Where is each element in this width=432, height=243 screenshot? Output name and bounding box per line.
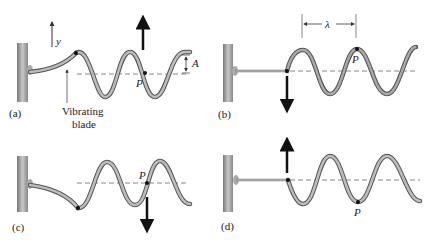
y-axis-label: y <box>55 35 61 47</box>
panel-label-c: (c) <box>12 221 25 234</box>
panel-label-b: (b) <box>218 108 231 121</box>
wall <box>223 155 233 212</box>
point-p-label: P <box>353 206 361 218</box>
panel-label-d: (d) <box>221 220 234 233</box>
wave-figure: P y A Vibrating blade (a) P λ (b) <box>0 0 432 243</box>
wall <box>17 43 28 102</box>
point-p-dot <box>355 47 359 51</box>
wall <box>17 156 28 212</box>
point-p-dot <box>356 200 360 204</box>
panel-label-a: (a) <box>9 107 22 120</box>
caption-vibrating: Vibrating <box>62 105 104 117</box>
point-p-label: P <box>351 53 359 65</box>
point-p-dot <box>143 71 147 75</box>
blade-tip-dot <box>74 51 78 55</box>
amplitude-label: A <box>191 57 199 69</box>
point-p-label: P <box>135 77 143 89</box>
wavelength-label: λ <box>324 18 330 30</box>
point-p-label: P <box>138 169 146 181</box>
wall <box>223 44 233 102</box>
panel-b: P λ (b) <box>218 14 418 121</box>
point-p-dot <box>145 181 149 185</box>
panel-c: P (c) <box>12 156 190 234</box>
panel-d: P (d) <box>221 144 420 233</box>
caption-blade: blade <box>72 118 96 130</box>
panel-a: P y A Vibrating blade (a) <box>9 22 199 130</box>
